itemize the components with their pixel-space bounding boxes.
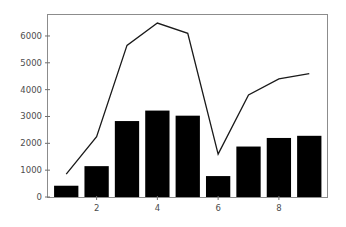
bar-7 (236, 147, 260, 197)
bar-5 (176, 116, 200, 197)
y-tick-label: 0 (37, 192, 42, 202)
y-tick-label: 3000 (20, 111, 42, 121)
y-tick-label: 2000 (20, 138, 42, 148)
bar-4 (145, 111, 169, 197)
bar-1 (54, 186, 78, 197)
bar-8 (267, 138, 291, 197)
bar-6 (206, 176, 230, 197)
x-tick-label: 4 (155, 203, 160, 213)
bar-3 (115, 121, 139, 197)
y-tick-label: 4000 (20, 85, 42, 95)
x-tick-label: 2 (94, 203, 99, 213)
y-tick-label: 5000 (20, 58, 42, 68)
chart-plot-area: 0100020003000400050006000 2468 (0, 0, 346, 227)
chart-figure: 0100020003000400050006000 2468 (0, 0, 346, 227)
bar-9 (297, 136, 321, 197)
x-tick-label: 8 (276, 203, 281, 213)
y-tick-label: 6000 (20, 31, 42, 41)
bar-2 (84, 166, 108, 197)
figure-background (0, 0, 346, 227)
x-tick-label: 6 (215, 203, 220, 213)
y-tick-label: 1000 (20, 165, 42, 175)
